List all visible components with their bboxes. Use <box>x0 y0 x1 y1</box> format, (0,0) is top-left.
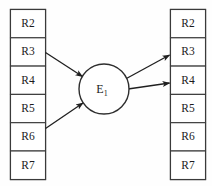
right-cell-r3-label: R3 <box>181 45 195 57</box>
right-cell-r2[interactable]: R2 <box>171 10 206 38</box>
left-cell-r5[interactable]: R5 <box>11 94 46 122</box>
left-cell-r6[interactable]: R6 <box>11 123 46 151</box>
diagram-canvas: R2 R3 R4 R5 R6 R7 <box>0 0 212 186</box>
left-cell-r2-label: R2 <box>21 17 35 29</box>
right-cell-r4[interactable]: R4 <box>171 66 206 94</box>
left-cell-r4-label: R4 <box>21 74 35 86</box>
right-cell-r7[interactable]: R7 <box>171 151 206 180</box>
left-cell-r3-label: R3 <box>21 45 35 57</box>
diagram-svg: R2 R3 R4 R5 R6 R7 <box>0 0 212 186</box>
left-cell-r3[interactable]: R3 <box>11 38 46 66</box>
right-cell-r3[interactable]: R3 <box>171 38 206 66</box>
left-cell-r4[interactable]: R4 <box>11 66 46 94</box>
right-cell-r4-label: R4 <box>181 74 195 86</box>
right-cell-r5[interactable]: R5 <box>171 94 206 122</box>
edge-e1-to-r4[interactable] <box>128 83 170 89</box>
left-cell-r6-label: R6 <box>21 130 35 142</box>
edge-e1-to-r3[interactable] <box>126 55 170 79</box>
left-cell-r2[interactable]: R2 <box>11 10 46 38</box>
entity-node-subscript: 1 <box>104 89 108 98</box>
edge-r6-to-e1[interactable] <box>46 103 84 129</box>
right-cell-r2-label: R2 <box>181 17 195 29</box>
right-cell-r6[interactable]: R6 <box>171 123 206 151</box>
entity-node-e1[interactable]: E1 <box>79 64 129 114</box>
right-cell-r6-label: R6 <box>181 130 195 142</box>
left-cell-r7-label: R7 <box>21 159 35 171</box>
entity-node-letter: E <box>96 82 103 96</box>
left-cell-r7[interactable]: R7 <box>11 151 46 180</box>
right-cell-r5-label: R5 <box>181 102 195 114</box>
left-cell-r5-label: R5 <box>21 102 35 114</box>
edge-r3-to-e1[interactable] <box>46 53 83 77</box>
left-relation-column: R2 R3 R4 R5 R6 R7 <box>11 10 46 180</box>
right-cell-r7-label: R7 <box>181 159 195 171</box>
right-relation-column: R2 R3 R4 R5 R6 R7 <box>171 10 206 180</box>
